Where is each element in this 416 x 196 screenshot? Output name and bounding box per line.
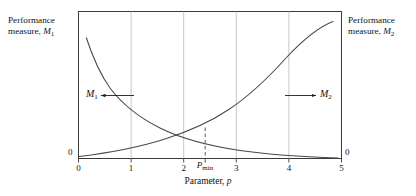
annotation-m1-subscript: 1 xyxy=(94,93,98,101)
x-tick-label-5: 5 xyxy=(339,163,344,173)
x-axis-title-text: Parameter, xyxy=(185,176,225,186)
right-axis-symbol: M xyxy=(383,26,391,36)
figure-container: Performance measure, M1 Performance meas… xyxy=(0,0,416,196)
left-axis-label-text: measure, xyxy=(8,26,41,36)
left-axis-label: Performance measure, M1 xyxy=(8,15,55,40)
x-tick-label-3: 3 xyxy=(234,163,239,173)
x-tick-label-0: 0 xyxy=(76,163,81,173)
y-axis-left-zero-label: 0 xyxy=(68,147,73,157)
left-axis-symbol: M xyxy=(43,26,51,36)
right-axis-symbol-subscript: 2 xyxy=(391,30,395,38)
pmin-subscript: min xyxy=(202,164,213,172)
left-axis-label-line1: Performance xyxy=(8,15,55,26)
x-tick-label-4: 4 xyxy=(287,163,292,173)
left-axis-label-line2: measure, M1 xyxy=(8,26,55,40)
x-tick-label-1: 1 xyxy=(129,163,134,173)
x-axis-title: Parameter, p xyxy=(0,176,416,186)
right-axis-label-line1: Performance xyxy=(348,15,395,26)
right-axis-label-text: measure, xyxy=(348,26,381,36)
annotation-m2: M2 xyxy=(320,88,332,101)
right-axis-label: Performance measure, M2 xyxy=(348,15,395,40)
annotation-m2-subscript: 2 xyxy=(328,93,332,101)
plot-frame xyxy=(79,12,342,159)
y-axis-right-zero-label: 0 xyxy=(345,147,350,157)
left-axis-symbol-subscript: 1 xyxy=(51,30,55,38)
x-tick-label-2: 2 xyxy=(181,163,186,173)
annotation-m1: M1 xyxy=(86,88,98,101)
pmin-tick-label: Pmin xyxy=(197,160,213,172)
right-axis-label-line2: measure, M2 xyxy=(348,26,395,40)
x-axis-title-symbol: p xyxy=(227,176,232,186)
